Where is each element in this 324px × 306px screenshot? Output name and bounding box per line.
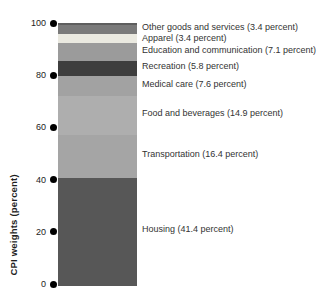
segment-label-transportation: Transportation (16.4 percent) <box>142 149 258 160</box>
y-tick-label: 20 <box>36 227 46 237</box>
bar-segment-other-goods-and-services <box>58 25 137 34</box>
segment-label-medical-care: Medical care (7.6 percent) <box>142 79 247 90</box>
segment-label-housing: Housing (41.4 percent) <box>142 224 234 235</box>
segment-label-other-goods-and-services: Other goods and services (3.4 percent) <box>142 22 298 33</box>
tick-dot-icon <box>50 176 57 183</box>
y-tick-label: 40 <box>36 175 46 185</box>
y-tick-label: 60 <box>36 122 46 132</box>
y-tick: 20 <box>0 227 57 237</box>
y-tick-label: 80 <box>36 70 46 80</box>
y-tick: 60 <box>0 122 57 132</box>
y-tick: 40 <box>0 175 57 185</box>
y-tick: 80 <box>0 70 57 80</box>
segment-label-education-and-communication: Education and communication (7.1 percent… <box>142 45 316 56</box>
y-tick: 100 <box>0 18 57 28</box>
segment-label-food-and-beverages: Food and beverages (14.9 percent) <box>142 108 283 119</box>
segment-label-recreation: Recreation (5.8 percent) <box>142 61 239 72</box>
tick-dot-icon <box>50 20 57 27</box>
y-axis-title: CPI weights (percent) <box>8 176 21 276</box>
stacked-bar <box>58 23 137 284</box>
bar-segment-recreation <box>58 61 137 76</box>
bar-segment-food-and-beverages <box>58 96 137 135</box>
tick-dot-icon <box>50 281 57 288</box>
bar-segment-education-and-communication <box>58 43 137 62</box>
bar-segment-apparel <box>58 34 137 43</box>
y-tick: 0 <box>0 279 57 289</box>
bar-segment-transportation <box>58 135 137 178</box>
y-tick-label: 0 <box>41 279 46 289</box>
bar-segment-medical-care <box>58 76 137 96</box>
tick-dot-icon <box>50 72 57 79</box>
segment-label-apparel: Apparel (3.4 percent) <box>142 33 227 44</box>
y-tick-label: 100 <box>31 18 46 28</box>
tick-dot-icon <box>50 228 57 235</box>
cpi-weights-stacked-bar-chart: CPI weights (percent) 020406080100 Other… <box>0 0 324 306</box>
bar-segment-housing <box>58 178 137 286</box>
tick-dot-icon <box>50 124 57 131</box>
